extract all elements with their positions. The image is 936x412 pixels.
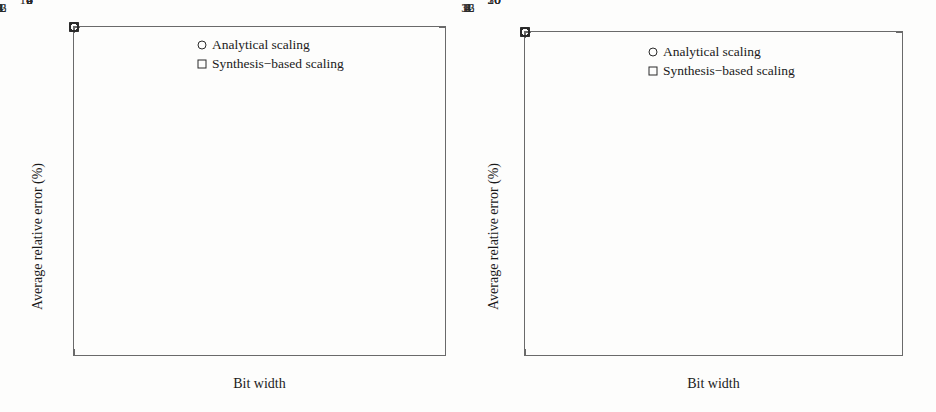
legend-label-synthesis-based-scaling: Synthesis−based scaling [212, 54, 344, 73]
legend-item-analytical-scaling: Analytical scaling [196, 35, 344, 54]
plot-area-right: Analytical scaling Synthesis−based scali… [524, 31, 903, 356]
x-tick-label: 32 [461, 0, 475, 16]
legend-label-analytical-scaling: Analytical scaling [663, 42, 761, 61]
square-marker-icon [647, 65, 658, 76]
chart-panel-right: Analytical scaling Synthesis−based scali… [468, 0, 936, 412]
legend-item-synthesis-based-scaling: Synthesis−based scaling [647, 61, 795, 80]
data-point-square [521, 28, 530, 37]
circle-marker-icon [196, 39, 207, 50]
x-tick-major [525, 349, 526, 355]
legend-label-analytical-scaling: Analytical scaling [212, 35, 310, 54]
legend-item-synthesis-based-scaling: Synthesis−based scaling [196, 54, 344, 73]
square-marker-icon [196, 58, 207, 69]
x-tick-label: 32 [0, 0, 7, 16]
chart-panel-left: Analytical scaling Synthesis−based scali… [0, 0, 468, 412]
x-axis-title-right: Bit width [524, 376, 903, 392]
plot-area-left: Analytical scaling Synthesis−based scali… [73, 26, 446, 356]
y-tick-minor-right [899, 32, 902, 33]
figure-scatter-pair: Analytical scaling Synthesis−based scali… [0, 0, 936, 412]
circle-marker-icon [647, 46, 658, 57]
y-axis-title-right: Average relative error (%) [486, 163, 502, 310]
x-tick-major [74, 349, 75, 355]
x-axis-title-left: Bit width [73, 376, 446, 392]
y-tick-minor-right [442, 27, 445, 28]
y-axis-title-left: Average relative error (%) [30, 163, 46, 310]
legend-item-analytical-scaling: Analytical scaling [647, 42, 795, 61]
legend-right: Analytical scaling Synthesis−based scali… [647, 42, 795, 80]
legend-left: Analytical scaling Synthesis−based scali… [196, 35, 344, 73]
legend-label-synthesis-based-scaling: Synthesis−based scaling [663, 61, 795, 80]
data-point-square [70, 23, 79, 32]
